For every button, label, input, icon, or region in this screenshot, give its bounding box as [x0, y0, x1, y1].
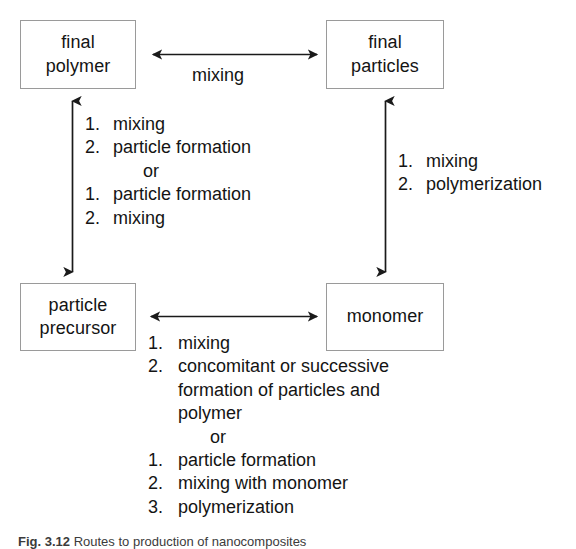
list-item-number: 2.	[398, 173, 426, 196]
list-item-text: polymerization	[178, 496, 448, 519]
list-item-number: 1.	[85, 183, 113, 206]
node-final-polymer: final polymer	[20, 20, 136, 89]
list-item-text: concomitant or successive formation of p…	[178, 355, 448, 425]
node-final-particles-label: final particles	[351, 31, 419, 77]
node-particle-precursor-label: particle precursor	[40, 294, 117, 340]
list-item-number: 1.	[148, 332, 178, 355]
list-item-number: 1.	[148, 449, 178, 472]
list-item: 1. mixing	[398, 150, 573, 173]
list-item-text: mixing	[113, 113, 295, 136]
figure-caption-label: Fig. 3.12	[18, 534, 70, 549]
list-item-number: 2.	[85, 136, 113, 159]
list-item-text: mixing	[426, 150, 573, 173]
list-item: 1. particle formation	[148, 449, 448, 472]
bottom-route-list: 1. mixing 2. concomitant or successive f…	[148, 332, 448, 519]
list-item-text: mixing	[113, 207, 295, 230]
list-item-number: 2.	[148, 472, 178, 495]
list-item-text: mixing with monomer	[178, 472, 448, 495]
bottom-route-or-separator: or	[148, 426, 448, 449]
left-route-list: 1. mixing 2. particle formation or 1. pa…	[85, 113, 295, 230]
edge-label-mixing-top: mixing	[192, 66, 244, 84]
node-final-polymer-label: final polymer	[46, 31, 111, 77]
figure-caption-text: Routes to production of nanocomposites	[74, 534, 307, 549]
figure-caption: Fig. 3.12 Routes to production of nanoco…	[18, 534, 306, 549]
node-particle-precursor: particle precursor	[20, 283, 136, 351]
node-monomer-label: monomer	[347, 305, 424, 328]
list-item: 2. polymerization	[398, 173, 573, 196]
right-route-list: 1. mixing 2. polymerization	[398, 150, 573, 197]
list-item: 2. mixing with monomer	[148, 472, 448, 495]
list-item: 1. mixing	[85, 113, 295, 136]
list-item-text: particle formation	[178, 449, 448, 472]
node-final-particles: final particles	[326, 20, 444, 89]
list-item: 2. concomitant or successive formation o…	[148, 355, 448, 425]
left-route-or-separator: or	[85, 160, 295, 183]
list-item-number: 2.	[85, 207, 113, 230]
list-item-text: polymerization	[426, 173, 573, 196]
list-item: 1. particle formation	[85, 183, 295, 206]
list-item-number: 1.	[398, 150, 426, 173]
list-item-text: particle formation	[113, 183, 295, 206]
list-item-number: 1.	[85, 113, 113, 136]
list-item: 2. particle formation	[85, 136, 295, 159]
list-item: 3. polymerization	[148, 496, 448, 519]
list-item: 1. mixing	[148, 332, 448, 355]
list-item-text: particle formation	[113, 136, 295, 159]
list-item-number: 3.	[148, 496, 178, 519]
list-item-number: 2.	[148, 355, 178, 378]
list-item-text: mixing	[178, 332, 448, 355]
list-item: 2. mixing	[85, 207, 295, 230]
